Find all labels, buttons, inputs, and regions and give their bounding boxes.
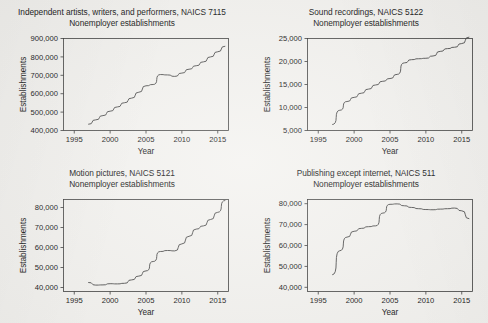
data-series-line [333, 37, 469, 124]
y-axis-label: Establishments [19, 218, 28, 274]
y-tick-label: 25,000 [279, 34, 302, 43]
x-tick-label: 1995 [310, 296, 327, 305]
y-axis-label: Establishments [263, 57, 272, 113]
chart-panel-sound-recordings: Sound recordings, NAICS 5122 Nonemployer… [244, 0, 488, 161]
plot-area: 5,00010,00015,00020,00025,00019952000200… [244, 0, 488, 161]
y-tick-label: 70,000 [35, 223, 58, 232]
x-tick-label: 2005 [382, 296, 399, 305]
y-tick-label: 50,000 [35, 263, 58, 272]
x-tick-label: 2005 [138, 135, 155, 144]
x-tick-label: 2000 [346, 296, 363, 305]
x-tick-label: 2015 [209, 296, 226, 305]
y-tick-label: 15,000 [279, 80, 302, 89]
plot-area: 40,00050,00060,00070,00080,0001995200020… [0, 161, 244, 323]
x-tick-label: 1995 [310, 135, 327, 144]
plot-area: 40,00050,00060,00070,00080,0001995200020… [244, 161, 488, 323]
y-tick-label: 5,000 [283, 126, 302, 135]
y-axis-label: Establishments [19, 57, 28, 113]
y-tick-label: 800,000 [31, 53, 58, 62]
x-tick-label: 2010 [173, 135, 190, 144]
x-tick-label: 2000 [346, 135, 363, 144]
plot-area: 400,000500,000600,000700,000800,000900,0… [0, 0, 244, 161]
y-tick-label: 700,000 [31, 71, 58, 80]
y-tick-label: 70,000 [279, 220, 302, 229]
y-tick-label: 50,000 [279, 262, 302, 271]
y-tick-label: 40,000 [279, 283, 302, 292]
x-tick-label: 2015 [209, 135, 226, 144]
y-tick-label: 400,000 [31, 126, 58, 135]
y-tick-label: 10,000 [279, 103, 302, 112]
y-axis-label: Establishments [263, 218, 272, 274]
x-tick-label: 2010 [417, 296, 434, 305]
y-tick-label: 500,000 [31, 108, 58, 117]
data-series-line [89, 46, 225, 124]
x-tick-label: 2005 [382, 135, 399, 144]
line-chart-svg: 40,00050,00060,00070,00080,0001995200020… [244, 161, 488, 323]
x-axis-label: Year [382, 147, 399, 156]
x-tick-label: 2010 [173, 296, 190, 305]
y-tick-label: 600,000 [31, 89, 58, 98]
y-tick-label: 80,000 [279, 199, 302, 208]
x-axis-label: Year [138, 147, 155, 156]
line-chart-svg: 40,00050,00060,00070,00080,0001995200020… [0, 161, 244, 323]
line-chart-svg: 5,00010,00015,00020,00025,00019952000200… [244, 0, 488, 161]
y-tick-label: 80,000 [35, 203, 58, 212]
data-series-line [333, 204, 469, 275]
x-tick-label: 2000 [102, 296, 119, 305]
chart-panel-independent-artists: Independent artists, writers, and perfor… [0, 0, 244, 161]
x-tick-label: 2015 [453, 135, 470, 144]
line-chart-svg: 400,000500,000600,000700,000800,000900,0… [0, 0, 244, 161]
x-tick-label: 2015 [453, 296, 470, 305]
x-axis-label: Year [138, 308, 155, 317]
x-tick-label: 2010 [417, 135, 434, 144]
y-tick-label: 60,000 [279, 241, 302, 250]
y-tick-label: 40,000 [35, 283, 58, 292]
x-tick-label: 2000 [102, 135, 119, 144]
data-series-line [89, 201, 225, 286]
y-tick-label: 60,000 [35, 243, 58, 252]
y-tick-label: 20,000 [279, 57, 302, 66]
x-tick-label: 1995 [66, 296, 83, 305]
y-tick-label: 900,000 [31, 34, 58, 43]
x-tick-label: 1995 [66, 135, 83, 144]
figure-panel-grid: Independent artists, writers, and perfor… [0, 0, 488, 323]
chart-panel-motion-pictures: Motion pictures, NAICS 5121 Nonemployer … [0, 161, 244, 323]
x-tick-label: 2005 [138, 296, 155, 305]
x-axis-label: Year [382, 308, 399, 317]
chart-panel-publishing: Publishing except internet, NAICS 511 No… [244, 161, 488, 323]
